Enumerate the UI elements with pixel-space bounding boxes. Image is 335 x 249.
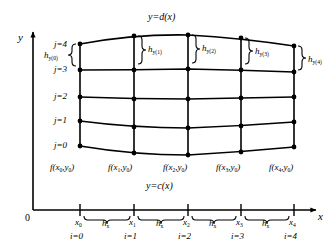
y-spacing-label-2: hy(2) bbox=[202, 44, 216, 54]
origin-label: 0 bbox=[25, 213, 30, 223]
x-axis-label: x bbox=[318, 211, 323, 222]
base-point-label-4: f(x4,y0) bbox=[269, 163, 293, 173]
row-label-j2: j=2 bbox=[54, 92, 67, 101]
upper-boundary-label: y=d(x) bbox=[148, 12, 175, 22]
y-spacing-label-3: hy(3) bbox=[255, 47, 269, 57]
x-spacing-label-2: hx bbox=[209, 219, 216, 229]
y-spacing-label-0: hy(0) bbox=[44, 51, 58, 61]
base-point-label-0: f(x0,y0) bbox=[50, 163, 74, 173]
base-point-label-1: f(x1,y0) bbox=[108, 163, 132, 173]
integration-grid-figure: y x 0 y=d(x) y=c(x) j=4 j=3 j=2 j=1 j=0 … bbox=[0, 0, 335, 249]
x-index-label-0: i=0 bbox=[70, 232, 83, 241]
row-label-j4: j=4 bbox=[54, 40, 67, 49]
y-spacing-label-1: hy(1) bbox=[148, 45, 162, 55]
x-tick-label-2: x2 bbox=[183, 218, 190, 228]
y-spacing-label-4: hy(4) bbox=[308, 55, 322, 65]
base-point-label-2: f(x2,y0) bbox=[163, 163, 187, 173]
base-point-label-3: f(x3,y0) bbox=[216, 163, 240, 173]
row-label-j0: j=0 bbox=[54, 141, 67, 150]
x-spacing-label-1: hx bbox=[156, 219, 163, 229]
x-tick-label-3: x3 bbox=[236, 218, 243, 228]
x-tick-label-0: x0 bbox=[75, 218, 82, 228]
brace-hy0 bbox=[68, 44, 76, 66]
y-axis-label: y bbox=[18, 32, 23, 43]
brace-hy3 bbox=[245, 38, 253, 64]
brace-hy4 bbox=[298, 46, 306, 70]
row-label-j1: j=1 bbox=[54, 116, 67, 125]
x-tick-label-4: x4 bbox=[289, 218, 296, 228]
x-spacing-label-3: hx bbox=[262, 219, 269, 229]
x-spacing-label-0: hx bbox=[102, 219, 109, 229]
brace-hy2 bbox=[192, 35, 200, 63]
brace-hy1 bbox=[138, 36, 146, 64]
x-index-label-4: i=4 bbox=[284, 232, 297, 241]
x-index-label-1: i=1 bbox=[124, 232, 137, 241]
x-index-label-2: i=2 bbox=[178, 232, 191, 241]
row-label-j3: j=3 bbox=[54, 65, 67, 74]
axis-lines bbox=[33, 32, 316, 210]
lower-boundary-label: y=c(x) bbox=[146, 181, 173, 191]
x-tick-label-1: x1 bbox=[129, 218, 136, 228]
diagram-canvas bbox=[0, 0, 335, 249]
x-index-label-3: i=3 bbox=[231, 232, 244, 241]
